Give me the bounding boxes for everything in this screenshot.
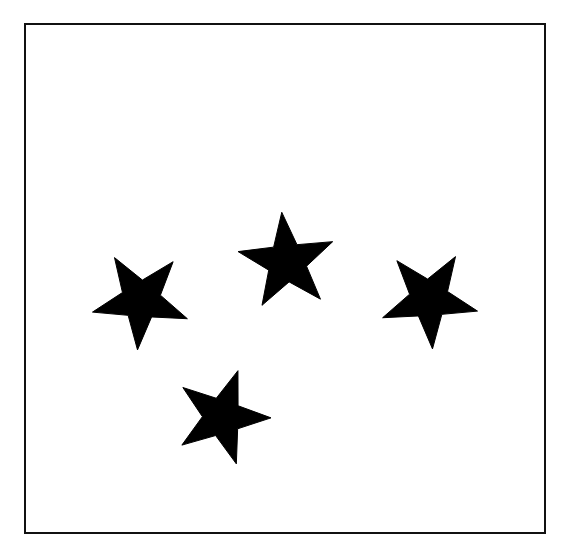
caption-ghost-text bbox=[0, 0, 570, 14]
star-polygon bbox=[238, 212, 333, 305]
star-polygon bbox=[182, 371, 271, 464]
star-icon-left bbox=[85, 244, 197, 356]
star-polygon bbox=[383, 257, 478, 349]
star-icon-right bbox=[373, 243, 485, 355]
star-polygon bbox=[92, 258, 187, 350]
star-icon-bottom bbox=[167, 362, 277, 472]
figure-canvas bbox=[0, 0, 570, 545]
star-icon-top bbox=[231, 206, 343, 318]
